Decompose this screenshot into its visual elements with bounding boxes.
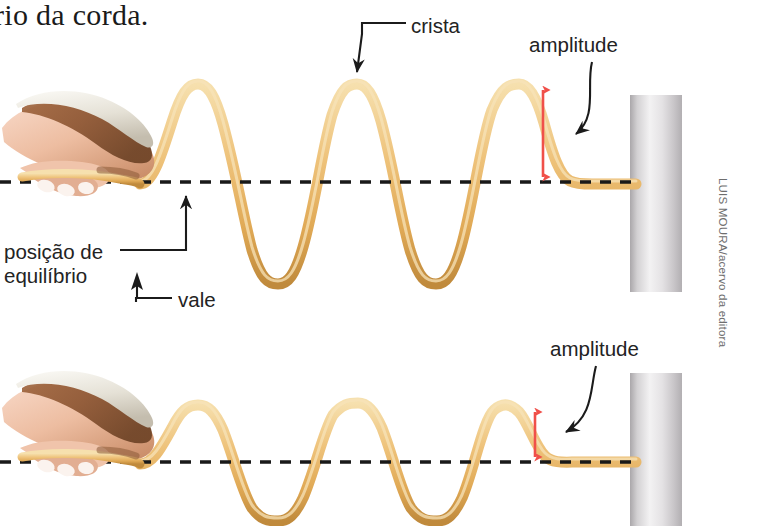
label-vale: vale (178, 288, 216, 312)
leader-line-amplitude-bottom (566, 366, 596, 432)
figure-root: rio da corda. (0, 0, 769, 526)
wall-pole-icon-top (630, 95, 682, 292)
label-crista: crista (411, 14, 460, 38)
leader-line-equilibrium (120, 196, 186, 250)
wave-diagram-svg (0, 0, 769, 526)
wall-pole-icon-bottom (630, 373, 682, 526)
label-posicao-equilibrio: posição de equilíbrio (4, 240, 103, 288)
label-posicao-equilibrio-line1: posição de (4, 240, 103, 263)
leader-line-amplitude-top (576, 62, 592, 134)
bottom-diagram (0, 366, 682, 526)
label-amplitude-bottom: amplitude (550, 337, 639, 361)
rope-wave-top (140, 84, 636, 284)
leader-line-crista (357, 23, 406, 72)
label-posicao-equilibrio-line2: equilíbrio (4, 264, 87, 287)
leader-line-vale-final (137, 297, 172, 298)
image-credit: LUIS MOURA/acervo da editora (717, 178, 729, 428)
label-amplitude-top: amplitude (529, 33, 618, 57)
